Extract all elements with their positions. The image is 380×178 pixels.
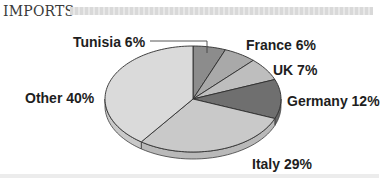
label-italy: Italy 29% [252,156,312,172]
bottom-rule-divider [0,174,379,178]
label-tunisia: Tunisia 6% [73,34,145,50]
label-other: Other 40% [25,90,94,106]
label-france: France 6% [246,37,316,53]
label-uk: UK 7% [273,62,317,78]
label-germany: Germany 12% [287,93,380,109]
